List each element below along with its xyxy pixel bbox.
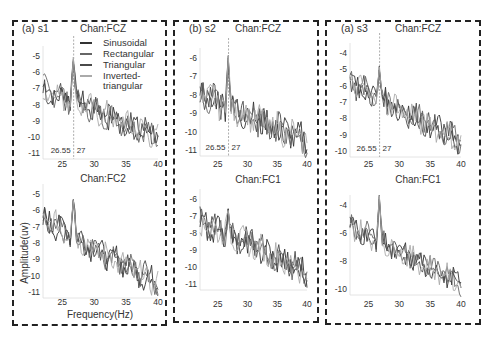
svg-text:30: 30 <box>89 297 99 307</box>
svg-text:-6: -6 <box>189 53 197 63</box>
svg-text:-6: -6 <box>339 228 347 238</box>
svg-text:-4: -4 <box>339 200 347 210</box>
svg-text:-8: -8 <box>189 90 197 100</box>
svg-text:-6: -6 <box>339 81 347 91</box>
svg-text:-11: -11 <box>185 145 197 155</box>
svg-text:30: 30 <box>243 159 253 169</box>
svg-text:30: 30 <box>395 159 405 169</box>
svg-text:Chan:FC1: Chan:FC1 <box>395 174 441 185</box>
svg-text:Frequency(Hz): Frequency(Hz) <box>67 309 133 320</box>
svg-text:-11: -11 <box>28 287 40 297</box>
svg-text:40: 40 <box>456 159 466 169</box>
svg-text:25: 25 <box>364 159 374 169</box>
svg-text:-8: -8 <box>32 238 40 248</box>
svg-text:-5: -5 <box>32 189 40 199</box>
svg-text:-9: -9 <box>189 245 197 255</box>
svg-text:27: 27 <box>232 143 241 152</box>
svg-text:26.55: 26.55 <box>51 146 72 155</box>
svg-text:-9: -9 <box>339 130 347 140</box>
svg-text:30: 30 <box>243 299 253 309</box>
chart-canvas: -5-6-7-8-9-10-1125303540Chan:FCZ(a) s126… <box>0 0 489 342</box>
svg-text:25: 25 <box>364 299 374 309</box>
svg-text:Sinusoidal: Sinusoidal <box>103 37 147 48</box>
svg-text:40: 40 <box>153 297 163 307</box>
svg-text:(b) s2: (b) s2 <box>189 22 216 34</box>
svg-text:-9: -9 <box>189 108 197 118</box>
svg-text:25: 25 <box>57 159 67 169</box>
svg-text:Chan:FC2: Chan:FC2 <box>80 173 126 184</box>
svg-text:Amplitude(uv): Amplitude(uv) <box>19 222 30 284</box>
svg-text:40: 40 <box>456 299 466 309</box>
svg-text:-7: -7 <box>32 222 40 232</box>
svg-text:40: 40 <box>153 159 163 169</box>
svg-text:-10: -10 <box>335 284 348 294</box>
svg-text:Triangular: Triangular <box>103 59 145 70</box>
svg-text:-7: -7 <box>32 83 40 93</box>
svg-text:-8: -8 <box>339 113 347 123</box>
svg-text:26.55: 26.55 <box>206 143 227 152</box>
svg-text:35: 35 <box>425 299 435 309</box>
svg-text:-6: -6 <box>32 205 40 215</box>
svg-text:27: 27 <box>383 144 392 153</box>
svg-text:30: 30 <box>395 299 405 309</box>
svg-text:Chan:FCZ: Chan:FCZ <box>80 23 126 34</box>
svg-text:-6: -6 <box>189 194 197 204</box>
svg-text:-5: -5 <box>339 64 347 74</box>
svg-text:-10: -10 <box>335 146 348 156</box>
svg-text:triangular: triangular <box>103 80 143 91</box>
svg-text:40: 40 <box>302 299 312 309</box>
svg-text:-11: -11 <box>28 148 40 158</box>
svg-text:35: 35 <box>121 159 131 169</box>
svg-text:-5: -5 <box>32 51 40 61</box>
svg-text:-6: -6 <box>32 67 40 77</box>
svg-text:30: 30 <box>89 159 99 169</box>
svg-text:25: 25 <box>213 159 223 169</box>
svg-text:27: 27 <box>77 146 86 155</box>
svg-text:(a) s1: (a) s1 <box>22 22 49 34</box>
svg-text:40: 40 <box>302 159 312 169</box>
svg-text:Chan:FCZ: Chan:FCZ <box>235 23 281 34</box>
svg-text:-8: -8 <box>189 228 197 238</box>
svg-text:25: 25 <box>213 299 223 309</box>
svg-text:-10: -10 <box>185 127 198 137</box>
svg-text:Chan:FC1: Chan:FC1 <box>235 174 281 185</box>
svg-text:(a) s3: (a) s3 <box>341 22 368 34</box>
svg-text:26.55: 26.55 <box>357 144 378 153</box>
svg-text:-7: -7 <box>189 211 197 221</box>
svg-text:-9: -9 <box>32 254 40 264</box>
svg-text:-8: -8 <box>32 100 40 110</box>
svg-text:35: 35 <box>273 159 283 169</box>
svg-text:-9: -9 <box>32 116 40 126</box>
svg-text:25: 25 <box>57 297 67 307</box>
svg-text:-11: -11 <box>185 279 197 289</box>
svg-text:-8: -8 <box>339 256 347 266</box>
svg-text:-4: -4 <box>339 48 347 58</box>
svg-text:Chan:FCZ: Chan:FCZ <box>395 23 441 34</box>
svg-text:35: 35 <box>273 299 283 309</box>
svg-text:35: 35 <box>121 297 131 307</box>
svg-text:-10: -10 <box>185 262 198 272</box>
svg-text:-10: -10 <box>28 132 41 142</box>
svg-text:Rectangular: Rectangular <box>103 48 154 59</box>
svg-text:-7: -7 <box>339 97 347 107</box>
svg-text:35: 35 <box>425 159 435 169</box>
svg-text:-7: -7 <box>189 71 197 81</box>
